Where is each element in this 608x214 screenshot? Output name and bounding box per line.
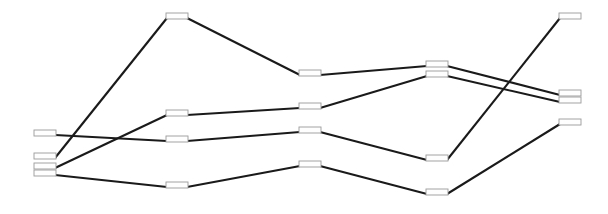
node-rect[interactable] xyxy=(299,70,321,76)
link-segment[interactable] xyxy=(187,132,300,141)
diagram-svg xyxy=(0,0,608,214)
node[interactable] xyxy=(299,103,321,109)
node[interactable] xyxy=(559,13,581,19)
node[interactable] xyxy=(166,13,188,19)
node-rect[interactable] xyxy=(166,13,188,19)
node-rect[interactable] xyxy=(426,61,448,67)
node[interactable] xyxy=(426,71,448,77)
node-rect[interactable] xyxy=(34,170,56,176)
node-rect[interactable] xyxy=(559,97,581,103)
node[interactable] xyxy=(426,189,448,195)
link-segment[interactable] xyxy=(187,108,300,115)
diagram-canvas xyxy=(0,0,608,214)
node-rect[interactable] xyxy=(559,90,581,96)
link-segment[interactable] xyxy=(187,18,300,75)
node-rect[interactable] xyxy=(166,110,188,116)
node[interactable] xyxy=(166,110,188,116)
link-segment[interactable] xyxy=(55,115,167,168)
link-segment[interactable] xyxy=(187,166,300,187)
link-segment[interactable] xyxy=(320,66,427,75)
node[interactable] xyxy=(34,130,56,136)
node-rect[interactable] xyxy=(34,163,56,169)
node-rect[interactable] xyxy=(166,136,188,142)
node-rect[interactable] xyxy=(559,13,581,19)
node-rect[interactable] xyxy=(426,71,448,77)
node[interactable] xyxy=(559,97,581,103)
node[interactable] xyxy=(559,90,581,96)
node[interactable] xyxy=(426,61,448,67)
node-rect[interactable] xyxy=(34,130,56,136)
link-segment[interactable] xyxy=(320,166,427,194)
node[interactable] xyxy=(426,155,448,161)
node-rect[interactable] xyxy=(166,182,188,188)
node-rect[interactable] xyxy=(299,127,321,133)
node[interactable] xyxy=(34,163,56,169)
node[interactable] xyxy=(166,182,188,188)
node-rect[interactable] xyxy=(426,189,448,195)
node[interactable] xyxy=(559,119,581,125)
link-segment[interactable] xyxy=(320,132,427,160)
link-segment[interactable] xyxy=(320,76,427,108)
node-rect[interactable] xyxy=(299,161,321,167)
node[interactable] xyxy=(299,161,321,167)
node[interactable] xyxy=(299,127,321,133)
node-rect[interactable] xyxy=(559,119,581,125)
node-rect[interactable] xyxy=(426,155,448,161)
link-segment[interactable] xyxy=(55,175,167,187)
node[interactable] xyxy=(166,136,188,142)
node[interactable] xyxy=(34,153,56,159)
nodes-layer xyxy=(34,13,581,195)
node-rect[interactable] xyxy=(299,103,321,109)
node[interactable] xyxy=(299,70,321,76)
node[interactable] xyxy=(34,170,56,176)
link-segment[interactable] xyxy=(447,124,560,194)
node-rect[interactable] xyxy=(34,153,56,159)
